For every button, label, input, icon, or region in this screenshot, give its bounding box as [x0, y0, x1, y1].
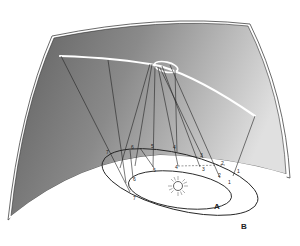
retrograde-motion-diagram: 7 6 5 4 3 2 1 7 6 5 4 3 2 1 A B: [0, 0, 300, 246]
svg-text:5: 5: [151, 143, 154, 149]
sun-icon: [168, 176, 188, 196]
svg-text:4: 4: [175, 164, 178, 170]
svg-text:1: 1: [228, 179, 231, 185]
svg-text:2: 2: [221, 160, 224, 166]
orbit-a-label: A: [214, 202, 220, 211]
svg-text:1: 1: [237, 168, 240, 174]
svg-text:6: 6: [133, 176, 136, 182]
svg-text:6: 6: [131, 144, 134, 150]
svg-text:5: 5: [153, 167, 156, 173]
svg-text:2: 2: [218, 172, 221, 178]
svg-text:7: 7: [133, 195, 136, 201]
svg-text:3: 3: [202, 166, 205, 172]
svg-text:7: 7: [106, 149, 109, 155]
svg-text:3: 3: [200, 152, 203, 158]
orbit-b-label: B: [241, 222, 247, 231]
svg-text:4: 4: [173, 144, 176, 150]
